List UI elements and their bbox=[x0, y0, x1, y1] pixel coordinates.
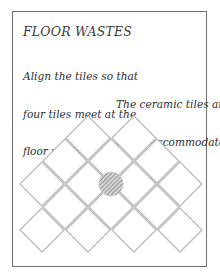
floor-waste-drain bbox=[99, 172, 123, 196]
tile-layout-diagram bbox=[0, 0, 220, 279]
